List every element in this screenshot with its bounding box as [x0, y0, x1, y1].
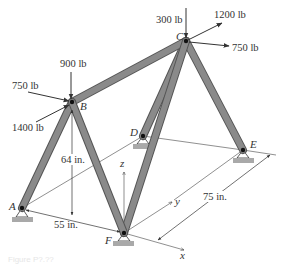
- dim-75-label: 75 in.: [203, 191, 227, 202]
- joint-B: [70, 100, 74, 104]
- joint-F: [122, 231, 126, 235]
- member-BF: [72, 102, 124, 233]
- joint-A: [20, 206, 24, 210]
- joint-E: [241, 148, 245, 152]
- load-B-750-arrow: [28, 92, 69, 101]
- node-label-D: D: [129, 126, 138, 138]
- member-CE: [186, 41, 243, 150]
- axis-label-y: y: [174, 195, 180, 207]
- axis-label-x: x: [179, 249, 185, 261]
- node-label-B: B: [80, 100, 87, 112]
- dim-55-label: 55 in.: [54, 219, 78, 230]
- load-B-750-label: 750 lb: [12, 80, 39, 91]
- joint-D: [141, 134, 145, 138]
- load-C-750-arrow: [189, 42, 229, 46]
- ground-line-E-ext: [243, 150, 276, 155]
- load-C-1200-label: 1200 lb: [214, 9, 246, 20]
- figure-caption: Figure P?.??: [8, 255, 54, 264]
- joint-C: [184, 39, 188, 43]
- load-C-1200-arrow: [188, 23, 222, 40]
- load-B-1400-label: 1400 lb: [12, 122, 44, 133]
- node-label-E: E: [249, 138, 257, 150]
- load-C-750-label: 750 lb: [232, 42, 259, 53]
- node-label-F: F: [104, 234, 112, 246]
- truss-diagram: 900 lb 750 lb 1400 lb 300 lb 1200 lb 750…: [0, 0, 284, 266]
- node-label-C: C: [176, 30, 184, 42]
- load-B-900-label: 900 lb: [60, 58, 87, 69]
- load-C-300-label: 300 lb: [156, 14, 183, 25]
- axis-label-z: z: [119, 157, 125, 169]
- dim-64-label: 64 in.: [61, 154, 85, 165]
- node-label-A: A: [8, 200, 16, 212]
